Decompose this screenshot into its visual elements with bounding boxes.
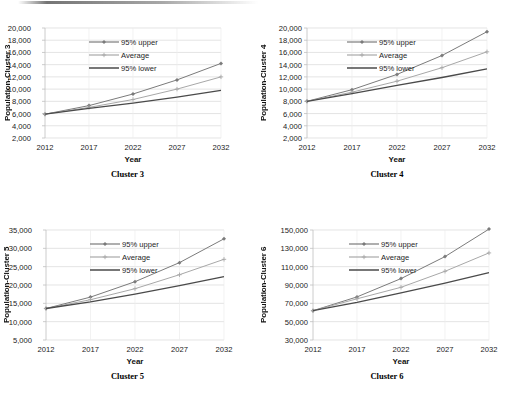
y-tick-label: 35,000 (9, 226, 32, 235)
y-tick-label: 14,000 (279, 60, 302, 69)
y-tick-label: 70,000 (285, 299, 308, 308)
y-tick-label: 6,000 (12, 109, 31, 118)
x-tick-label: 2032 (479, 143, 496, 152)
x-tick-label: 2017 (349, 345, 366, 354)
y-tick-label: 2,000 (283, 134, 302, 143)
chart-grid: 95% upperAverage95% lowerPopulation-Clus… (0, 0, 519, 403)
y-tick-label: 12,000 (279, 72, 302, 81)
y-tick-label: 16,000 (8, 48, 31, 57)
y-tick-label: 10,000 (8, 85, 31, 94)
y-tick-label: 30,000 (285, 336, 308, 345)
x-axis-label: Year (307, 155, 487, 164)
legend-label: Average (381, 253, 409, 262)
legend-label: 95% upper (379, 38, 416, 47)
x-tick-label: 2032 (481, 345, 498, 354)
x-tick-label: 2032 (216, 345, 233, 354)
x-tick-label: 2022 (389, 143, 406, 152)
y-tick-label: 18,000 (8, 36, 31, 45)
y-tick-label: 4,000 (283, 121, 302, 130)
legend-label: 95% lower (381, 266, 417, 275)
y-tick-label: 10,000 (9, 317, 32, 326)
legend-label: Average (122, 253, 150, 262)
x-tick-label: 2027 (169, 143, 186, 152)
panel-caption: Cluster 6 (255, 371, 519, 381)
legend-label: 95% upper (122, 240, 159, 249)
y-tick-label: 150,000 (281, 226, 308, 235)
y-tick-label: 4,000 (12, 121, 31, 130)
y-tick-label: 18,000 (279, 36, 302, 45)
y-tick-label: 5,000 (13, 336, 32, 345)
legend-label: 95% upper (381, 240, 418, 249)
x-tick-label: 2032 (213, 143, 230, 152)
legend-label: 95% lower (379, 64, 415, 73)
x-tick-label: 2017 (344, 143, 361, 152)
panel-cluster-4: 95% upperAverage95% lowerPopulation-Clus… (255, 0, 519, 200)
y-tick-label: 12,000 (8, 72, 31, 81)
y-tick-label: 16,000 (279, 48, 302, 57)
legend-label: 95% upper (121, 38, 158, 47)
legend-label: Average (121, 51, 149, 60)
x-tick-label: 2022 (393, 345, 410, 354)
y-axis-label: Population-Cluster 6 (259, 226, 268, 344)
y-tick-label: 10,000 (279, 85, 302, 94)
x-tick-label: 2017 (82, 345, 99, 354)
y-tick-label: 20,000 (8, 24, 31, 33)
panel-cluster-3: 95% upperAverage95% lowerPopulation-Clus… (0, 0, 255, 200)
x-axis-label: Year (46, 357, 224, 366)
x-axis-label: Year (313, 357, 489, 366)
panel-cluster-5: 95% upperAverage95% lowerPopulation-Clus… (0, 200, 255, 403)
x-tick-label: 2027 (437, 345, 454, 354)
y-tick-label: 90,000 (285, 281, 308, 290)
y-tick-label: 8,000 (12, 97, 31, 106)
y-tick-label: 2,000 (12, 134, 31, 143)
y-tick-label: 50,000 (285, 317, 308, 326)
x-axis-label: Year (45, 155, 221, 164)
y-tick-label: 25,000 (9, 262, 32, 271)
y-tick-label: 30,000 (9, 244, 32, 253)
y-tick-label: 6,000 (283, 109, 302, 118)
y-tick-label: 14,000 (8, 60, 31, 69)
y-tick-label: 8,000 (283, 97, 302, 106)
x-tick-label: 2027 (171, 345, 188, 354)
x-tick-label: 2017 (81, 143, 98, 152)
y-tick-label: 110,000 (281, 262, 308, 271)
legend-label: 95% lower (122, 266, 158, 275)
x-tick-label: 2012 (38, 345, 55, 354)
x-tick-label: 2012 (305, 345, 322, 354)
x-tick-label: 2022 (127, 345, 144, 354)
y-tick-label: 20,000 (279, 24, 302, 33)
y-axis-label: Population-Cluster 4 (259, 24, 268, 142)
panel-cluster-6: 95% upperAverage95% lowerPopulation-Clus… (255, 200, 519, 403)
y-tick-label: 15,000 (9, 299, 32, 308)
panel-caption: Cluster 5 (0, 371, 255, 381)
panel-caption: Cluster 3 (0, 169, 255, 179)
x-tick-label: 2022 (125, 143, 142, 152)
x-tick-label: 2012 (299, 143, 316, 152)
x-tick-label: 2027 (434, 143, 451, 152)
panel-caption: Cluster 4 (255, 169, 519, 179)
legend-label: Average (379, 51, 407, 60)
y-tick-label: 20,000 (9, 281, 32, 290)
y-tick-label: 130,000 (281, 244, 308, 253)
legend-label: 95% lower (121, 64, 157, 73)
x-tick-label: 2012 (37, 143, 54, 152)
